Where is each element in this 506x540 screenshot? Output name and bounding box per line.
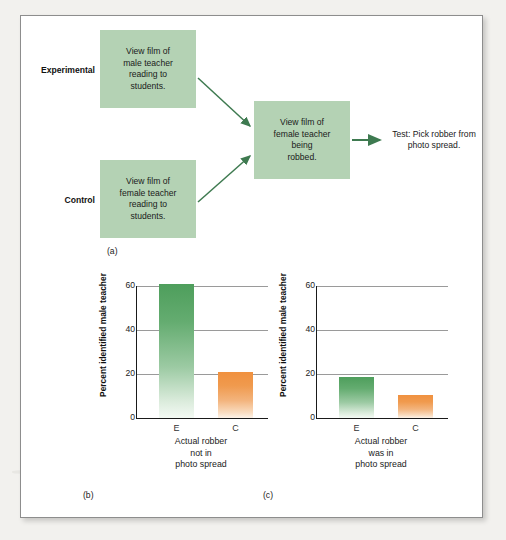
x-tick-C: C — [398, 423, 433, 433]
y-tick-20: 20 — [113, 368, 135, 378]
flow-text-line: photo spread. — [408, 140, 461, 150]
y-axis-line — [316, 286, 317, 419]
y-tick-0: 0 — [293, 412, 315, 422]
panel-c-bar-chart: Percent identified male teacher 60 40 20… — [259, 278, 474, 518]
flow-box-robbery-film: View film of female teacher being robbed… — [254, 101, 350, 179]
gridline-40 — [136, 330, 268, 331]
y-tick-0: 0 — [113, 412, 135, 422]
x-axis-line — [136, 418, 268, 419]
gridline-20 — [316, 374, 448, 375]
flow-box-experimental-film: View film of male teacher reading to stu… — [100, 30, 196, 108]
flow-box-line: female teacher — [274, 129, 331, 141]
gridline-40 — [316, 330, 448, 331]
flow-text-line: Pick robber — [413, 129, 456, 139]
flow-box-line: being — [274, 140, 331, 152]
y-tick-60: 60 — [113, 280, 135, 290]
x-axis-title-line: Actual robber — [306, 436, 456, 448]
y-axis-title: Percent identified male teacher — [278, 262, 288, 408]
x-axis-title-line: Actual robber — [126, 436, 276, 448]
flow-box-line: female teacher — [120, 188, 177, 200]
flow-box-line: View film of — [274, 117, 331, 129]
x-tick-C: C — [218, 423, 253, 433]
arrow-control-to-robbery — [198, 156, 250, 202]
panel-caption-c: (c) — [263, 490, 273, 500]
flow-text-line: Test: — [392, 129, 410, 139]
bar-experimental — [339, 377, 374, 418]
flow-box-line: View film of — [120, 176, 177, 188]
x-axis-title-line: not in — [126, 448, 276, 460]
flow-text-line: from — [459, 129, 476, 139]
x-axis-title-line: photo spread — [126, 459, 276, 471]
x-tick-E: E — [339, 423, 374, 433]
flow-box-line: students. — [120, 211, 177, 223]
scanned-page: Experimental Control View film of male t… — [0, 0, 506, 540]
bar-experimental — [159, 284, 194, 418]
flow-box-line: robbed. — [274, 152, 331, 164]
panel-caption-a: (a) — [107, 246, 118, 256]
flow-box-line: students. — [123, 81, 173, 93]
x-tick-E: E — [159, 423, 194, 433]
bar-control — [218, 372, 253, 418]
panel-caption-b: (b) — [83, 490, 94, 500]
y-tick-40: 40 — [113, 324, 135, 334]
plot-area-c: 60 40 20 0 E C — [316, 286, 448, 418]
flow-box-control-film: View film of female teacher reading to s… — [100, 160, 196, 238]
flow-box-line: reading to — [120, 199, 177, 211]
x-axis-line — [316, 418, 448, 419]
y-tick-40: 40 — [293, 324, 315, 334]
y-tick-20: 20 — [293, 368, 315, 378]
gridline-60 — [316, 286, 448, 287]
arrow-experimental-to-robbery — [198, 78, 250, 126]
figure-frame: Experimental Control View film of male t… — [20, 15, 483, 518]
plot-area-b: 60 40 20 0 E C — [136, 286, 268, 418]
flow-box-line: View film of — [123, 46, 173, 58]
y-tick-60: 60 — [293, 280, 315, 290]
x-axis-title-line: photo spread — [306, 459, 456, 471]
panel-a-flow-diagram: Experimental Control View film of male t… — [21, 16, 482, 268]
group-label-experimental: Experimental — [23, 65, 95, 75]
x-axis-title: Actual robber was in photo spread — [306, 436, 456, 471]
y-axis-title: Percent identified male teacher — [98, 262, 108, 408]
flow-text-test-phase: Test: Pick robber from photo spread. — [386, 108, 482, 172]
x-axis-title-line: was in — [306, 448, 456, 460]
group-label-control: Control — [23, 195, 95, 205]
bar-control — [398, 395, 433, 418]
x-axis-title: Actual robber not in photo spread — [126, 436, 276, 471]
gridline-60 — [136, 286, 268, 287]
y-axis-line — [136, 286, 137, 419]
flow-box-line: reading to — [123, 69, 173, 81]
flow-box-line: male teacher — [123, 58, 173, 70]
